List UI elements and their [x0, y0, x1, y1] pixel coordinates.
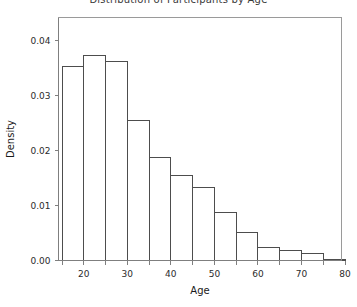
histogram-bar: [193, 188, 215, 261]
x-tick-label: 20: [78, 269, 90, 279]
histogram-bar: [214, 212, 236, 260]
y-tick-label: 0.04: [30, 36, 50, 46]
histogram-bar: [106, 61, 128, 260]
y-tick-label: 0.00: [30, 256, 50, 266]
y-tick-label: 0.03: [30, 91, 50, 101]
chart-title: Distribution of Participants by Age: [0, 0, 357, 5]
y-tick-label: 0.01: [30, 201, 50, 211]
y-axis-title: Density: [5, 120, 16, 158]
histogram-bar: [84, 56, 106, 261]
x-tick-label: 30: [122, 269, 134, 279]
x-tick-label: 70: [296, 269, 308, 279]
histogram-bar: [171, 175, 193, 260]
bars-group: [62, 56, 345, 261]
histogram-bar: [301, 254, 323, 261]
histogram-bar: [62, 66, 84, 260]
histogram-bar: [236, 232, 258, 260]
histogram-figure: Distribution of Participants by Age 2030…: [0, 0, 357, 307]
x-tick-label: 80: [339, 269, 351, 279]
histogram-bar: [127, 121, 149, 261]
y-tick-label: 0.02: [30, 146, 50, 156]
x-axis-title: Age: [190, 285, 209, 296]
plot-area: 20304050607080 0.000.010.020.030.04 Age …: [0, 0, 357, 307]
x-tick-label: 40: [165, 269, 177, 279]
histogram-bar: [149, 157, 171, 260]
x-axis: 20304050607080: [59, 261, 351, 279]
y-axis: 0.000.010.020.030.04: [30, 18, 58, 266]
x-tick-label: 50: [209, 269, 221, 279]
histogram-bar: [280, 251, 302, 261]
x-tick-label: 60: [252, 269, 264, 279]
histogram-bar: [258, 247, 280, 260]
